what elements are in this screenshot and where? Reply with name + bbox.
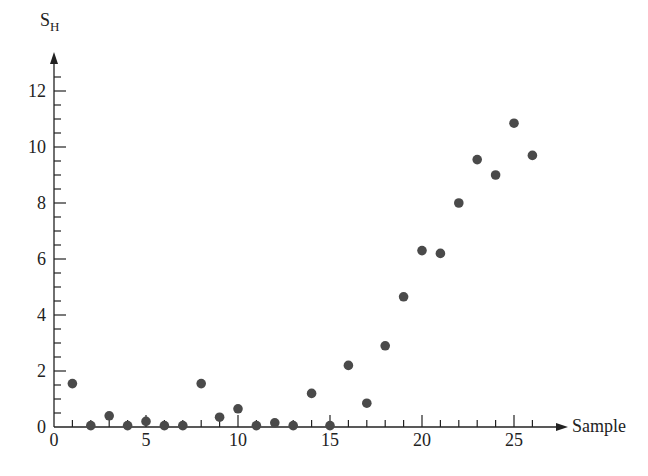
scatter-chart: 0510152025024681012 SH Sample — [0, 0, 648, 476]
x-tick-label: 10 — [229, 430, 247, 450]
data-point — [307, 389, 317, 399]
data-point — [215, 412, 225, 422]
y-tick-label: 2 — [37, 361, 46, 381]
x-tick-label: 20 — [413, 430, 431, 450]
data-point — [509, 118, 519, 128]
data-point — [528, 151, 538, 161]
data-point — [472, 155, 482, 165]
x-tick-label: 15 — [321, 430, 339, 450]
y-tick-label: 6 — [37, 249, 46, 269]
data-points — [68, 118, 538, 430]
data-point — [380, 341, 390, 351]
data-point — [123, 421, 133, 431]
y-tick-label: 4 — [37, 305, 46, 325]
data-point — [436, 249, 446, 259]
data-point — [270, 418, 280, 428]
y-tick-label: 8 — [37, 193, 46, 213]
y-axis-arrow-icon — [50, 52, 58, 64]
data-point — [288, 421, 298, 431]
x-axis-label: Sample — [572, 416, 626, 436]
data-point — [196, 379, 206, 389]
data-point — [252, 421, 262, 431]
y-tick-label: 12 — [28, 81, 46, 101]
data-point — [491, 170, 501, 180]
data-point — [362, 398, 372, 408]
data-point — [399, 292, 409, 302]
axes: 0510152025024681012 — [28, 52, 568, 450]
x-tick-label: 5 — [142, 430, 151, 450]
y-tick-label: 10 — [28, 137, 46, 157]
data-point — [141, 417, 151, 427]
x-tick-label: 25 — [505, 430, 523, 450]
data-point — [178, 421, 188, 431]
x-tick-label: 0 — [50, 430, 59, 450]
data-point — [68, 379, 78, 389]
x-axis-arrow-icon — [556, 423, 568, 431]
data-point — [160, 421, 170, 431]
data-point — [454, 198, 464, 208]
data-point — [417, 246, 427, 256]
data-point — [325, 421, 335, 431]
data-point — [233, 404, 243, 414]
data-point — [104, 411, 114, 421]
y-axis-label: SH — [40, 10, 59, 34]
data-point — [86, 421, 96, 431]
y-tick-label: 0 — [37, 417, 46, 437]
data-point — [344, 361, 354, 371]
